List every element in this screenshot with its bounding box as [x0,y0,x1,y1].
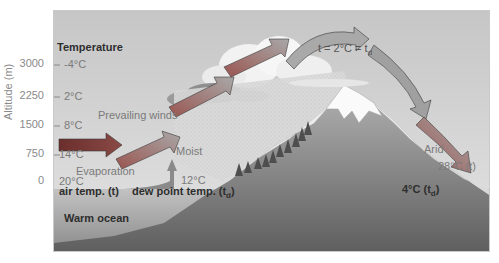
temp-label-2: 2°C [64,90,82,102]
temperature-header: Temperature [57,41,123,53]
summit-condition-label: t = 2°C = td [318,42,372,57]
air-temp-label: air temp. (t) [59,185,119,197]
dew-point-temp-label: dew point temp. (td) [132,185,235,200]
moist-label: Moist [176,145,202,157]
leeward-air-temp-label: 28°C (t) [438,160,476,172]
arid-label: Arid [424,143,444,155]
altitude-label-1500: 1500 [4,118,44,130]
altitude-label-0: 0 [4,174,44,186]
altitude-label-2250: 2250 [4,89,44,101]
altitude-label-3000: 3000 [4,57,44,69]
evaporation-label: Evaporation [76,165,135,177]
leeward-dew-point-label: 4°C (td) [402,183,439,198]
temp-label-minus4: -4°C [64,58,86,70]
altitude-label-750: 750 [4,147,44,159]
warm-ocean-label: Warm ocean [64,212,129,224]
temp-label-14: 14°C [59,148,84,160]
orographic-diagram: Temperature -4°C 2°C 8°C 14°C 20°C Preva… [53,10,490,252]
prevailing-winds-label: Prevailing winds [98,109,177,121]
temp-label-8: 8°C [64,119,82,131]
